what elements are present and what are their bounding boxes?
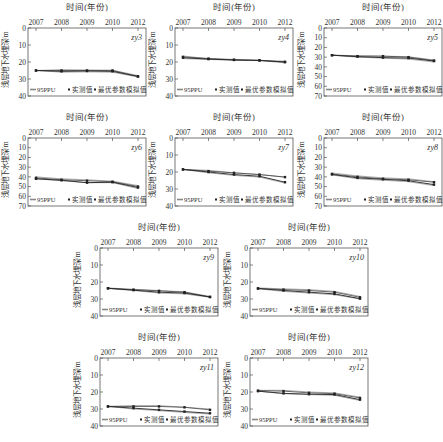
y-tick-label: 10: [166, 151, 174, 160]
data-marker: [359, 398, 361, 400]
data-marker: [35, 69, 37, 71]
data-marker: [282, 289, 284, 291]
x-tick-label: 2012: [353, 238, 368, 247]
y-tick-label: 20: [91, 278, 99, 287]
y-tick-label: 30: [166, 185, 174, 194]
y-tick-label: 0: [94, 244, 98, 253]
data-marker: [331, 54, 333, 56]
legend-simulated: 最优参数模拟值: [320, 415, 369, 424]
data-marker: [282, 390, 284, 392]
y-axis-title: 浅层地下水埋深/m: [222, 361, 232, 418]
y-tick-label: 20: [166, 58, 174, 67]
data-marker: [284, 176, 286, 178]
x-tick-label: 2007: [325, 128, 340, 137]
y-axis-title: 浅层地下水埋深/m: [0, 141, 10, 198]
data-marker: [308, 291, 310, 293]
y-tick-label: 10: [315, 33, 323, 42]
data-marker: [207, 171, 209, 173]
data-marker: [35, 178, 37, 180]
y-axis-title: 浅层地下水埋深/m: [296, 31, 306, 88]
x-tick-label: 2008: [350, 128, 365, 137]
y-tick-label: 0: [169, 134, 173, 143]
x-tick-label: 2010: [252, 18, 267, 27]
x-tick-label: 2012: [203, 348, 218, 357]
data-marker: [182, 168, 184, 170]
y-tick-label: 30: [315, 53, 323, 62]
legend-95ppu: 95PPU: [37, 196, 56, 203]
y-tick-label: 0: [22, 134, 26, 143]
x-tick-label: 2010: [327, 238, 342, 247]
legend-observed: 实测值: [368, 85, 389, 94]
chart-panel-zy11: 时间(年份)浅层地下水埋深/m2007200820092010201201020…: [72, 330, 220, 442]
x-tick-label: 2012: [353, 348, 368, 357]
data-marker: [282, 392, 284, 394]
data-marker: [158, 405, 160, 407]
x-axis-title: 时间(年份): [66, 112, 108, 122]
y-tick-label: 50: [315, 72, 323, 81]
y-tick-label: 60: [19, 192, 27, 201]
y-tick-label: 10: [91, 261, 99, 270]
x-tick-label: 2007: [251, 348, 266, 357]
legend-observed: 实测值: [219, 195, 240, 204]
y-tick-label: 10: [241, 261, 249, 270]
legend-95ppu: 95PPU: [333, 196, 352, 203]
data-marker: [107, 287, 109, 289]
legend-observed: 实测值: [144, 305, 165, 314]
x-tick-label: 2012: [203, 238, 218, 247]
series-line: [183, 169, 285, 183]
panel-label: zy4: [277, 33, 289, 42]
chart-panel-zy5: 时间(年份)浅层地下水埋深/m2007200820092010201201020…: [296, 0, 443, 114]
data-marker: [137, 75, 139, 77]
x-tick-label: 2009: [302, 348, 317, 357]
data-marker: [382, 56, 384, 58]
panel-label: zy7: [277, 143, 290, 152]
x-tick-label: 2008: [201, 128, 216, 137]
x-axis-title: 时间(年份): [138, 332, 180, 342]
y-tick-label: 60: [315, 82, 323, 91]
y-tick-label: 10: [91, 371, 99, 380]
legend-observed: 实测值: [144, 415, 165, 424]
data-marker: [158, 409, 160, 411]
y-tick-label: 10: [19, 143, 27, 152]
legend-simulated: 最优参数模拟值: [394, 195, 443, 204]
y-tick-label: 10: [166, 41, 174, 50]
x-tick-label: 2007: [29, 128, 44, 137]
y-tick-label: 40: [19, 92, 27, 101]
x-tick-label: 2009: [80, 128, 95, 137]
data-marker: [209, 296, 211, 298]
data-marker: [207, 58, 209, 60]
legend-95ppu: 95PPU: [259, 416, 278, 423]
y-tick-label: 40: [91, 422, 99, 431]
legend-95ppu: 95PPU: [109, 306, 128, 313]
data-marker: [183, 406, 185, 408]
data-marker: [60, 179, 62, 181]
legend-simulated: 最优参数模拟值: [170, 305, 219, 314]
data-marker: [284, 181, 286, 183]
y-tick-label: 10: [19, 41, 27, 50]
x-tick-label: 2007: [101, 238, 116, 247]
data-marker: [284, 61, 286, 63]
legend-simulated: 最优参数模拟值: [98, 195, 147, 204]
y-tick-label: 40: [315, 63, 323, 72]
y-tick-label: 30: [166, 75, 174, 84]
data-marker: [356, 177, 358, 179]
legend-95ppu: 95PPU: [333, 86, 352, 93]
legend-95ppu: 95PPU: [109, 416, 128, 423]
panel-label: zy9: [202, 253, 214, 262]
y-tick-label: 30: [241, 295, 249, 304]
data-marker: [111, 181, 113, 183]
x-tick-label: 2009: [376, 18, 391, 27]
chart-panel-zy10: 时间(年份)浅层地下水埋深/m2007200820092010201201020…: [222, 220, 370, 334]
y-tick-label: 0: [169, 24, 173, 33]
legend-observed: 实测值: [294, 415, 315, 424]
x-axis-title: 时间(年份): [288, 222, 330, 232]
y-tick-label: 20: [315, 43, 323, 52]
y-tick-label: 20: [241, 278, 249, 287]
x-tick-label: 2008: [126, 238, 141, 247]
data-marker: [86, 70, 88, 72]
legend-observed: 实测值: [72, 195, 93, 204]
legend-observed: 实测值: [368, 195, 389, 204]
data-marker: [356, 55, 358, 57]
y-tick-label: 30: [315, 163, 323, 172]
data-marker: [209, 412, 211, 414]
